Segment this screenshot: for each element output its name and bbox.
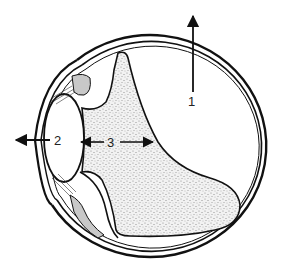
label-2: 2 [54,133,61,148]
label-3: 3 [107,135,114,150]
eye-diagram: 1 2 3 [0,0,289,265]
lens [44,94,84,182]
label-1: 1 [188,94,195,109]
